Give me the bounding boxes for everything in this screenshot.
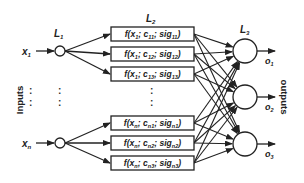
inputs-axis-label: Inputs [14, 86, 25, 115]
layer-label-l3: L3 [240, 24, 250, 36]
box-to-output-edge [194, 143, 232, 144]
kernel-box: f(xn; cn2; sign2) [111, 136, 194, 150]
l1-to-box-edge [65, 123, 110, 143]
layer-label-l2: L2 [146, 13, 156, 25]
outputs-axis-label: outputs [279, 80, 290, 115]
ellipsis-inputs-1: : [29, 85, 32, 96]
l1-to-box-edge [65, 34, 110, 51]
l1-to-box-edge [65, 51, 110, 54]
kernel-box: f(x1; c11; sig11) [111, 27, 194, 41]
l1-to-box-edge [65, 143, 110, 163]
box-to-output-edge [194, 62, 239, 143]
output-label-o2: o2 [265, 102, 274, 113]
l3-output-node [233, 85, 257, 109]
input-label-x1: x1 [21, 46, 32, 58]
input-label-xn: xn [21, 138, 32, 150]
ellipsis-group: : : : : : : [29, 85, 153, 108]
ellipsis-l1-2: : [58, 97, 61, 108]
box-to-output-edge [194, 52, 232, 54]
l1-to-box-edge [65, 51, 110, 74]
ellipsis-l1-1: : [58, 85, 61, 96]
ellipsis-inputs-2: : [29, 97, 32, 108]
kernel-box: f(x1; c13; sig13) [111, 67, 194, 81]
l3-output-node [233, 132, 257, 156]
l1-node [55, 46, 65, 56]
output-label-o3: o3 [265, 149, 274, 160]
ellipsis-l2-1: : [150, 85, 153, 96]
rbf-network-diagram: L1 L2 L3 x1 xn Inputs outputs : : : : : … [0, 0, 304, 183]
kernel-box: f(xn; cn3; sign3) [111, 156, 194, 170]
layer-label-l1: L1 [54, 28, 64, 40]
l1-node [55, 138, 65, 148]
output-label-o1: o1 [265, 56, 274, 67]
kernel-box: f(x1; c12; sig12) [111, 47, 194, 61]
box-to-output-edge [194, 54, 239, 133]
kernel-box: f(xn; cn1; sign1) [111, 116, 194, 130]
l3-output-node [233, 39, 257, 63]
ellipsis-l2-2: : [150, 97, 153, 108]
